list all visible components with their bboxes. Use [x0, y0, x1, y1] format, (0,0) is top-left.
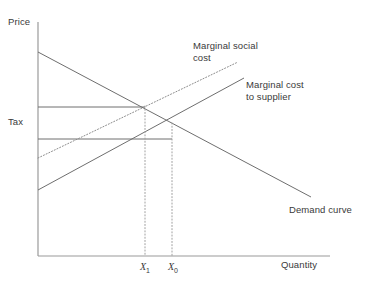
- x-tick-label-x1: X1: [140, 261, 150, 274]
- marginal-social-cost-line: [38, 62, 238, 158]
- marginal-cost-supplier-label: Marginal cost to supplier: [246, 79, 304, 102]
- x-axis-label: Quantity: [281, 259, 317, 271]
- x1-subscript: 1: [146, 267, 150, 274]
- economics-diagram: Price Tax Quantity Marginal social cost …: [0, 0, 368, 291]
- x0-subscript: 0: [174, 267, 178, 274]
- marginal-social-cost-label: Marginal social cost: [193, 40, 258, 63]
- demand-curve-label: Demand curve: [289, 204, 352, 216]
- y-axis-label: Price: [8, 16, 30, 28]
- plot-area: [0, 0, 368, 291]
- x-tick-label-x0: X0: [168, 261, 178, 274]
- demand-curve-line: [38, 52, 311, 197]
- marginal-cost-supplier-line: [38, 78, 244, 190]
- tax-bracket-label: Tax: [8, 116, 23, 128]
